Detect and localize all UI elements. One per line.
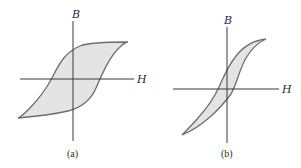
b-axis-label-b: B [223, 14, 232, 27]
panel-b: B H (b) [173, 14, 292, 160]
caption-a: (a) [67, 148, 78, 160]
panel-a: B H (a) [18, 8, 147, 160]
hysteresis-loop-b [182, 39, 266, 135]
hysteresis-figure: B H (a) B H (b) [0, 0, 301, 168]
caption-b: (b) [221, 148, 233, 160]
h-axis-label-a: H [136, 73, 147, 86]
h-axis-label-b: H [281, 83, 292, 96]
b-axis-label-a: B [71, 8, 80, 21]
